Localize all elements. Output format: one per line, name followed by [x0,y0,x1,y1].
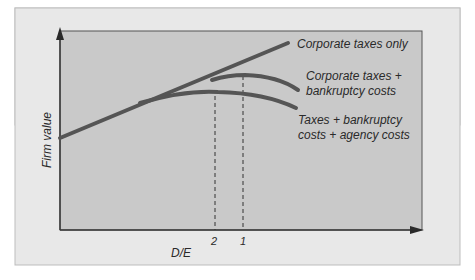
series-label-1: Corporate taxes only [297,37,409,51]
tick-label-2: 2 [210,235,217,247]
capital-structure-diagram: Corporate taxes only Corporate taxes + b… [0,0,475,280]
x-axis-label: D/E [171,246,192,260]
series-label-3a: Taxes + bankruptcy [298,113,403,127]
series-label-3b: costs + agency costs [298,128,410,142]
tick-label-1: 1 [240,235,246,247]
y-axis-label: Firm value [40,112,54,168]
series-label-2b: bankruptcy costs [306,84,396,98]
series-label-2a: Corporate taxes + [306,69,402,83]
